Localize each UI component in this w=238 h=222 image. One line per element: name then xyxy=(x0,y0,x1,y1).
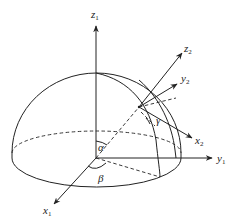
y2-label: y2 xyxy=(180,72,190,86)
moving-frame: z2 y2 x2 xyxy=(138,42,204,148)
z2-axis xyxy=(139,53,182,107)
x2-label: x2 xyxy=(194,134,204,148)
y1-label: y1 xyxy=(216,152,226,166)
beta-label: β xyxy=(97,172,104,184)
x1-axis xyxy=(54,158,96,204)
z2-label: z2 xyxy=(183,42,192,56)
x2-axis xyxy=(139,107,192,138)
x1-label: x1 xyxy=(42,204,52,218)
meridian-through-point xyxy=(96,73,160,177)
construction-lines xyxy=(96,98,176,177)
fixed-frame: z1 y1 x1 xyxy=(42,8,226,218)
hemisphere-diagram: z1 y1 x1 α β γ z2 y2 x2 xyxy=(0,0,238,222)
alpha-label: α xyxy=(98,141,104,153)
projection-line xyxy=(96,158,160,177)
z1-label: z1 xyxy=(90,8,99,22)
